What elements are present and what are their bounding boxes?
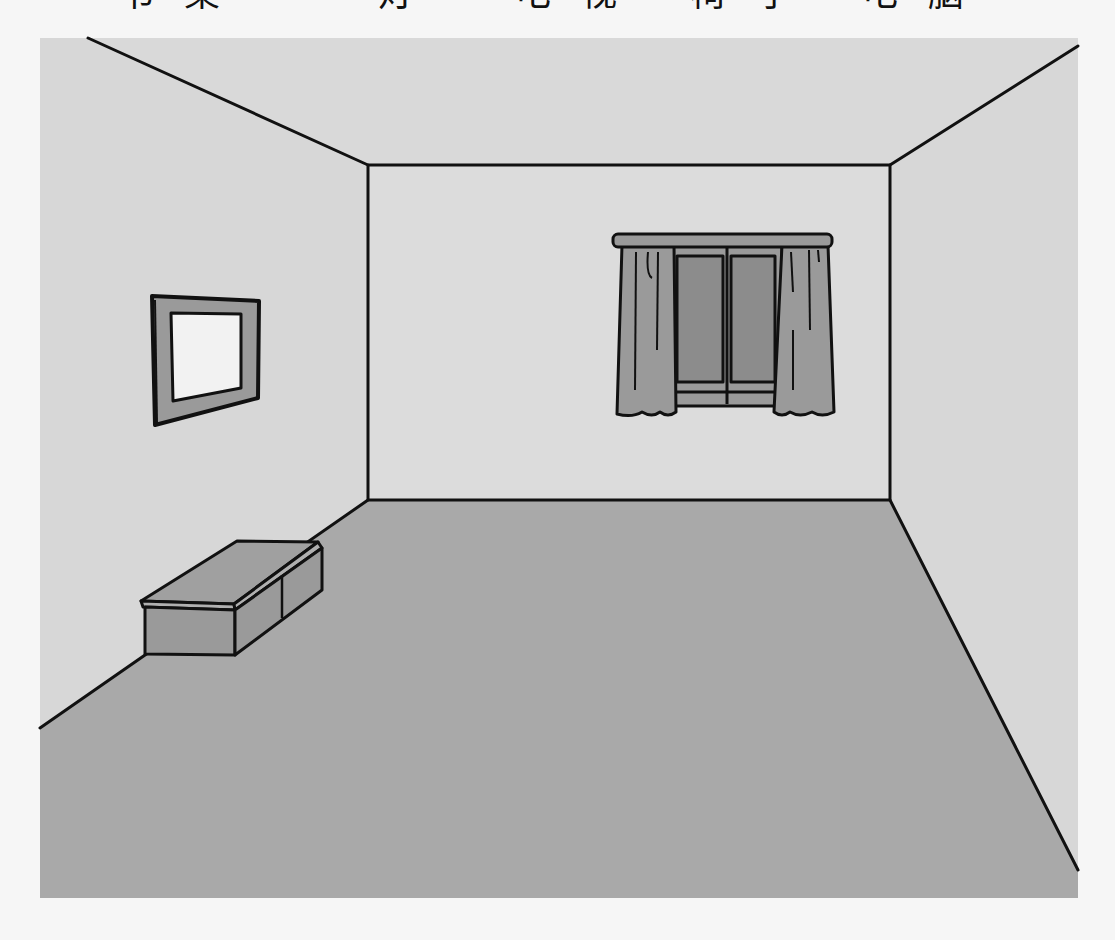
right-curtain-icon xyxy=(774,245,834,415)
window-icon xyxy=(613,234,834,416)
room-illustration xyxy=(0,0,1115,940)
left-curtain-icon xyxy=(617,245,676,416)
curtain-rod-icon xyxy=(613,234,832,247)
